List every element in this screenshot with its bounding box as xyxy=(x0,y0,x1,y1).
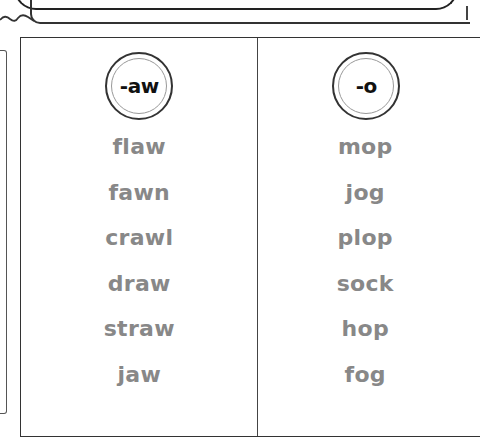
column-aw: -aw flaw fawn crawl draw straw jaw xyxy=(21,38,258,436)
word-list-aw: flaw fawn crawl draw straw jaw xyxy=(104,124,175,397)
header-badge-o: -o xyxy=(332,52,400,120)
word-item: draw xyxy=(108,261,171,307)
column-o: -o mop jog plop sock hop fog xyxy=(258,38,480,436)
word-list-o: mop jog plop sock hop fog xyxy=(337,124,394,397)
top-frame-outer xyxy=(30,0,470,24)
header-label-aw: -aw xyxy=(111,58,167,114)
header-label-o: -o xyxy=(338,58,394,114)
word-item: sock xyxy=(337,261,394,307)
top-right-tick xyxy=(460,6,468,20)
word-item: flaw xyxy=(113,124,166,170)
left-panel-edge xyxy=(0,50,7,414)
word-item: jaw xyxy=(117,352,161,398)
word-item: plop xyxy=(338,215,393,261)
word-item: fawn xyxy=(108,170,170,216)
header-badge-aw: -aw xyxy=(105,52,173,120)
word-item: fog xyxy=(345,352,386,398)
word-item: mop xyxy=(338,124,393,170)
word-item: jog xyxy=(346,170,385,216)
word-family-table: -aw flaw fawn crawl draw straw jaw -o mo… xyxy=(20,37,480,437)
squiggle-decoration xyxy=(0,12,34,24)
word-item: straw xyxy=(104,306,175,352)
word-item: hop xyxy=(342,306,389,352)
word-item: crawl xyxy=(105,215,173,261)
